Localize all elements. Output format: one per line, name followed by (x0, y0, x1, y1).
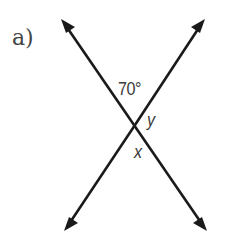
variable-y-label: y (147, 110, 155, 129)
arrowhead-upper-left-icon (61, 19, 75, 33)
arrowhead-upper-right-icon (191, 19, 205, 33)
ray-upper-right (135, 23, 202, 125)
arrowhead-lower-right-icon (193, 217, 207, 231)
ray-lower-left (67, 125, 135, 227)
ray-upper-left (64, 23, 134, 125)
arrowhead-lower-left-icon (64, 217, 78, 231)
angle-label-70: 70° (118, 79, 141, 98)
variable-x-label: x (134, 142, 142, 161)
part-label: a) (12, 27, 34, 49)
intersecting-lines-diagram (0, 0, 226, 237)
ray-lower-right (134, 125, 204, 227)
intersecting-lines-figure: a) 70° y x (0, 0, 226, 237)
